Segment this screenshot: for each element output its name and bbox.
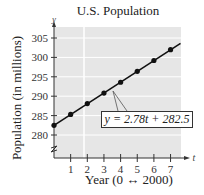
y-tick-label: 305: [32, 32, 49, 44]
data-point: [68, 112, 73, 117]
x-axis-label: Year (0 ↔ 2000): [54, 172, 204, 188]
data-point: [168, 47, 173, 52]
data-point: [85, 101, 90, 106]
data-point: [118, 80, 123, 85]
y-tick-label: 300: [32, 51, 49, 63]
equation-text: y = 2.78t + 282.5: [105, 112, 190, 126]
equation-callout: y = 2.78t + 282.5: [101, 111, 193, 128]
data-point: [135, 69, 140, 74]
plot-area: [54, 27, 181, 158]
x-axis-symbol: t: [193, 152, 196, 163]
x-axis-arrow-icon: [184, 156, 190, 160]
y-tick-label: 285: [32, 110, 49, 122]
y-axis-label: Population (in millions): [9, 36, 25, 160]
y-tick-label: 280: [32, 129, 49, 141]
chart-title: U.S. Population: [0, 3, 204, 19]
y-tick-label: 290: [32, 90, 49, 102]
chart-canvas: yt2802852902953003051234567: [0, 0, 204, 195]
data-point: [51, 123, 56, 128]
y-tick-label: 295: [32, 71, 49, 83]
data-point: [151, 58, 156, 63]
data-point: [101, 90, 106, 95]
